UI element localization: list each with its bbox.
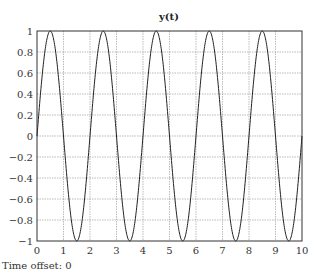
y-tick-label: 0.6	[17, 68, 33, 79]
x-axis-ticks: 012345678910	[34, 245, 309, 256]
y-tick-label: 0.4	[17, 89, 33, 100]
y-tick-label: 0.2	[17, 110, 33, 121]
line-chart: y(t) −1−0.8−0.6−0.4−0.200.20.40.60.81 01…	[0, 0, 318, 258]
x-tick-label: 3	[113, 245, 119, 256]
x-tick-label: 7	[219, 245, 225, 256]
x-tick-label: 4	[140, 245, 146, 256]
x-tick-label: 1	[60, 245, 66, 256]
x-tick-label: 6	[193, 245, 199, 256]
y-tick-label: 0.8	[17, 47, 33, 58]
y-axis-ticks: −1−0.8−0.6−0.4−0.200.20.40.60.81	[9, 26, 33, 247]
y-tick-label: 0	[27, 131, 33, 142]
y-tick-label: −0.8	[9, 215, 33, 226]
x-tick-label: 8	[246, 245, 252, 256]
y-tick-label: −0.6	[9, 194, 33, 205]
x-tick-label: 2	[87, 245, 93, 256]
x-tick-label: 10	[296, 245, 309, 256]
y-tick-label: −1	[18, 236, 33, 247]
x-tick-label: 0	[34, 245, 40, 256]
x-tick-label: 9	[272, 245, 278, 256]
y-tick-label: 1	[27, 26, 33, 37]
x-tick-label: 5	[166, 245, 172, 256]
y-tick-label: −0.2	[9, 152, 33, 163]
time-offset-label: Time offset: 0	[2, 260, 72, 271]
y-tick-label: −0.4	[9, 173, 33, 184]
chart-title: y(t)	[158, 11, 179, 22]
